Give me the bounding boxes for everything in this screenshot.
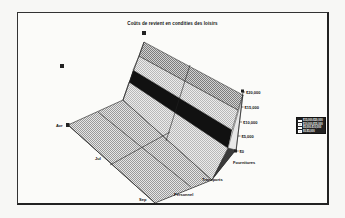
z-axis-base-marker — [234, 150, 237, 153]
z-tick-15000: $15,000 — [245, 105, 260, 110]
y-label-personnel: Personnel — [174, 192, 193, 197]
x-label-avr: Avr — [56, 123, 63, 128]
x-label-jul: Jul — [95, 156, 101, 161]
legend-label: $15,000-$20,000 — [303, 119, 323, 122]
x-axis-marker — [66, 123, 70, 127]
z-tick-0: $0 — [240, 149, 245, 154]
selection-handle[interactable] — [60, 64, 64, 68]
z-tick-5000: $5,000 — [242, 134, 255, 139]
selection-handle[interactable] — [142, 31, 146, 35]
z-tick-20000: $20,000 — [246, 90, 261, 95]
legend-swatch — [298, 127, 302, 130]
y-label-fournitures: Fournitures — [233, 160, 256, 165]
legend-swatch — [298, 120, 302, 123]
legend-label: $0-$5,000 — [303, 130, 315, 133]
x-label-sep: Sep — [139, 197, 147, 202]
z-tick-10000: $10,000 — [243, 120, 258, 125]
surface-chart: $20,000 $15,000 $10,000 $5,000 $0 Avr Ju… — [0, 0, 345, 218]
legend-swatch — [298, 123, 302, 126]
y-label-transports: Transports — [202, 177, 223, 182]
z-axis-marker — [241, 90, 244, 93]
legend-item: $0-$5,000 — [298, 130, 324, 134]
chart-legend: $15,000-$20,000 $10,000-$15,000 $5,000-$… — [296, 117, 326, 134]
legend-swatch — [298, 130, 302, 133]
